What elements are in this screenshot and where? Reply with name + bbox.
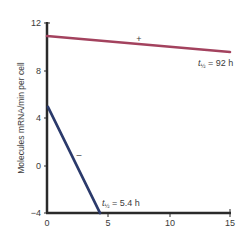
x-tick-5: 5 (105, 218, 110, 228)
y-tick-12: 12 (31, 18, 41, 28)
y-tick-labels: 12 8 4 0 −4 (31, 18, 41, 218)
upper-halflife-annotation: t½ = 92 h (198, 58, 233, 69)
x-tick-10: 10 (165, 218, 175, 228)
plus-marker: + (136, 34, 141, 44)
y-tick-0: 0 (36, 161, 41, 171)
minus-marker: – (76, 150, 81, 160)
x-tick-0: 0 (44, 218, 49, 228)
chart: 12 8 4 0 −4 0 5 10 15 Molecules mRNA/min… (0, 0, 246, 238)
y-axis-label: Molecules mRNA/min per cell (16, 62, 26, 174)
lower-halflife-annotation: t½ = 5.4 h (102, 198, 140, 209)
y-tick-minus4: −4 (31, 208, 41, 218)
series-minus-line (48, 107, 100, 213)
x-tick-15: 15 (225, 218, 235, 228)
x-tick-labels: 0 5 10 15 (44, 218, 235, 228)
y-tick-8: 8 (36, 66, 41, 76)
y-tick-4: 4 (36, 113, 41, 123)
